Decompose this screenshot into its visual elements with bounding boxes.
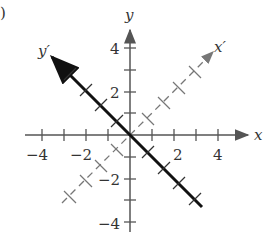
x-prime-label: x′ [214, 38, 226, 56]
x-axis-label: x [254, 126, 263, 144]
x-tick-neg4: −4 [26, 146, 48, 164]
y-prime-axis [52, 57, 202, 207]
y-tick-2: 2 [110, 84, 120, 102]
x-axis [25, 129, 248, 141]
y-tick-4: 4 [110, 40, 120, 58]
y-prime-label: y′ [37, 42, 50, 60]
x-prime-axis [62, 52, 213, 203]
x-tick-2: 2 [173, 146, 183, 164]
y-tick-neg2: −2 [98, 171, 120, 189]
x-tick-neg2: −2 [70, 146, 92, 164]
rotated-axes-diagram: ) y x y′ x′ −4 −2 2 4 4 2 −2 −4 [0, 0, 273, 248]
panel-label: ) [0, 4, 6, 22]
x-tick-4: 4 [213, 146, 223, 164]
y-tick-neg4: −4 [98, 215, 120, 233]
y-axis-label: y [124, 6, 134, 24]
